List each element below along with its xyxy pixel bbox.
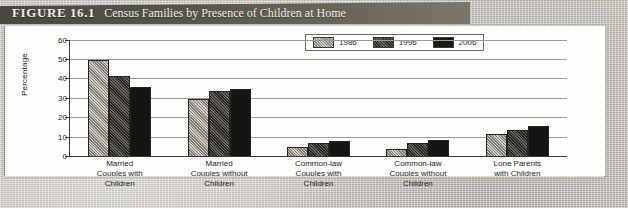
bar-2006 (329, 141, 350, 156)
x-category-label: Lone Parentswith Children (468, 159, 567, 189)
bar-1996 (209, 91, 230, 156)
bar-group-commonlaw-with-children (269, 40, 368, 156)
bar-1996 (507, 130, 528, 156)
bar-group-commonlaw-without-children (368, 40, 467, 156)
x-axis-category-labels: MarriedCouples withChildren MarriedCoupl… (70, 159, 567, 189)
x-category-label: MarriedCouples withoutChildren (169, 159, 268, 189)
bar-1996 (308, 143, 329, 156)
bar-2006 (528, 126, 549, 156)
bar-1996 (407, 143, 428, 156)
bar-groups (70, 40, 567, 156)
bar-group-married-with-children (70, 40, 169, 156)
figure-banner-text: FIGURE 16.1 Census Families by Presence … (0, 5, 346, 21)
y-axis-label: Percentage (20, 40, 29, 110)
plot-area: 1986 1996 2006 Percentage 60 50 40 30 20… (5, 26, 605, 176)
chart-panel: 1986 1996 2006 Percentage 60 50 40 30 20… (4, 26, 606, 176)
bar-group-lone-parents-with-children (468, 40, 567, 156)
bar-group-married-without-children (169, 40, 268, 156)
bar-1986 (386, 149, 407, 156)
bar-1986 (188, 99, 209, 156)
bar-2006 (130, 87, 151, 156)
bar-1986 (486, 134, 507, 156)
bar-2006 (230, 89, 251, 156)
bar-2006 (428, 140, 449, 156)
bar-1996 (109, 76, 130, 156)
x-category-label: MarriedCouples withChildren (70, 159, 169, 189)
x-category-label: Common-lawCouples withoutChildren (368, 159, 467, 189)
panel-bottom-edge (4, 176, 604, 178)
bar-1986 (88, 60, 109, 156)
figure-number: FIGURE 16.1 (12, 5, 95, 21)
x-category-label: Common-lawCouples withChildren (269, 159, 368, 189)
bar-1986 (287, 147, 308, 156)
figure-title: Census Families by Presence of Children … (104, 6, 346, 21)
x-axis-line (69, 156, 567, 157)
